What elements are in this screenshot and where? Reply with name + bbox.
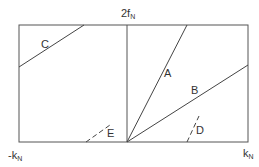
label-c: C xyxy=(41,39,49,50)
line-c xyxy=(19,25,84,67)
label-e: E xyxy=(107,128,114,139)
axis-right-label: kN xyxy=(243,148,254,160)
axis-top-label: 2fN xyxy=(121,8,135,20)
label-a: A xyxy=(164,68,171,79)
line-a xyxy=(127,25,187,142)
label-b: B xyxy=(191,85,198,96)
line-b xyxy=(127,65,248,142)
axis-left-label: -kN xyxy=(8,150,22,162)
diagram-canvas xyxy=(0,0,259,167)
frame xyxy=(19,25,248,142)
label-d: D xyxy=(196,125,204,136)
